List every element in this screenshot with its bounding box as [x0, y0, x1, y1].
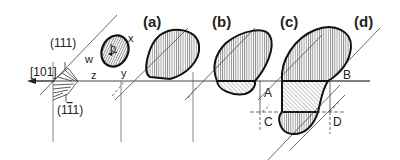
plane-1-11-label: (111) [57, 103, 83, 117]
loop-label-z: z [91, 69, 97, 81]
point-label-a: A [264, 86, 272, 100]
loop-label-w: w [84, 53, 93, 65]
point-label-b: B [343, 68, 351, 82]
point-label-d: D [333, 115, 342, 129]
panel-label-c: (c) [280, 13, 298, 30]
point-label-c: C [264, 115, 273, 129]
panel-label-a: (a) [143, 13, 161, 30]
loop-label-y: y [121, 67, 127, 79]
loop-a [146, 30, 199, 79]
dislocation-loop-diagram: [101] (111) (111) x y z w b (a) (b) (c) … [0, 0, 400, 160]
panel-label-d: (d) [354, 13, 373, 30]
plane-111-label: (111) [50, 36, 76, 50]
panel-label-b: (b) [212, 13, 231, 30]
burgers-vector-label: b [110, 42, 116, 54]
slip-direction-label: [101] [30, 65, 57, 79]
loop-label-x: x [128, 32, 134, 44]
loop-b [214, 30, 271, 94]
